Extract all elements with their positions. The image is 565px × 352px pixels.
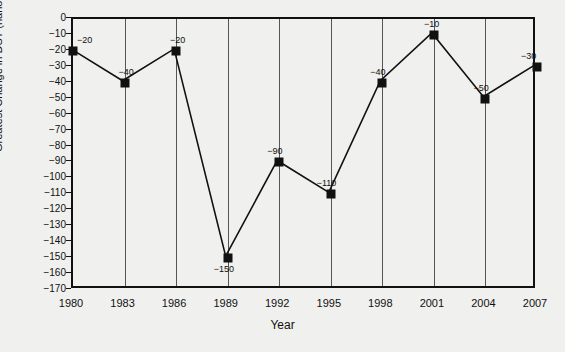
gridline xyxy=(485,19,486,286)
y-tick-label: −110 xyxy=(30,187,66,198)
data-point-marker xyxy=(275,158,284,167)
data-point-label: −10 xyxy=(424,19,439,29)
data-point-marker xyxy=(429,30,438,39)
gridline xyxy=(331,19,332,286)
x-tick-label: 1992 xyxy=(265,297,289,309)
y-tick-label: −100 xyxy=(30,171,66,182)
y-tick-label: −160 xyxy=(30,267,66,278)
y-tick-label: −90 xyxy=(30,155,66,166)
y-axis-title: Greatest Change in DST (nano-Tesla) xyxy=(0,0,4,152)
y-tick-label: −40 xyxy=(30,75,66,86)
y-tick-mark xyxy=(66,288,71,289)
y-tick-label: 0 xyxy=(30,12,66,23)
data-point-label: −90 xyxy=(267,146,282,156)
y-tick-label: −30 xyxy=(30,59,66,70)
x-tick-label: 1983 xyxy=(110,297,134,309)
x-tick-label: 2001 xyxy=(420,297,444,309)
y-tick-label: −50 xyxy=(30,91,66,102)
chart-figure: Greatest Change in DST (nano-Tesla) 0−10… xyxy=(0,0,565,352)
data-point-label: −150 xyxy=(214,264,234,274)
y-tick-label: −120 xyxy=(30,203,66,214)
data-point-marker xyxy=(120,78,129,87)
gridline xyxy=(176,19,177,286)
plot-area: −20−40−20−150−90−110−40−10−50−30 xyxy=(71,17,535,288)
data-point-label: −40 xyxy=(119,67,134,77)
y-tick-label: −170 xyxy=(30,283,66,294)
gridline xyxy=(382,19,383,286)
gridline xyxy=(228,19,229,286)
x-tick-label: 2004 xyxy=(471,297,495,309)
data-point-label: −30 xyxy=(521,51,536,61)
x-tick-label: 1998 xyxy=(368,297,392,309)
data-point-label: −40 xyxy=(370,67,385,77)
data-point-marker xyxy=(172,46,181,55)
x-tick-label: 1980 xyxy=(59,297,83,309)
y-tick-label: −150 xyxy=(30,251,66,262)
data-point-label: −50 xyxy=(473,83,488,93)
data-point-marker xyxy=(223,254,232,263)
data-point-label: −20 xyxy=(77,35,92,45)
data-point-label: −110 xyxy=(317,178,337,188)
y-tick-label: −60 xyxy=(30,107,66,118)
y-tick-label: −20 xyxy=(30,43,66,54)
x-tick-label: 1989 xyxy=(213,297,237,309)
y-tick-label: −10 xyxy=(30,27,66,38)
y-tick-label: −130 xyxy=(30,219,66,230)
gridline xyxy=(434,19,435,286)
x-tick-label: 1986 xyxy=(162,297,186,309)
y-tick-label: −80 xyxy=(30,139,66,150)
x-axis-title: Year xyxy=(0,318,565,332)
data-point-marker xyxy=(378,78,387,87)
y-tick-label: −70 xyxy=(30,123,66,134)
data-point-marker xyxy=(69,46,78,55)
data-point-marker xyxy=(533,62,542,71)
gridline xyxy=(125,19,126,286)
data-point-label: −20 xyxy=(170,35,185,45)
x-tick-label: 2007 xyxy=(523,297,547,309)
data-point-marker xyxy=(481,94,490,103)
data-point-marker xyxy=(326,190,335,199)
y-tick-label: −140 xyxy=(30,235,66,246)
x-tick-label: 1995 xyxy=(317,297,341,309)
